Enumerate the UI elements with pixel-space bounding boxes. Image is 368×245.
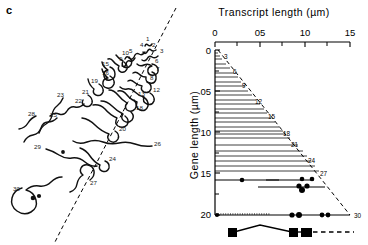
trace-label: 26 [154, 140, 161, 147]
trace-label: 2 [152, 41, 156, 48]
x-axis [215, 42, 350, 47]
x-tick-label: 0 [212, 27, 217, 38]
x-tick-label: 15 [345, 27, 356, 38]
y-tick-label: 10 [200, 127, 211, 138]
transcript-traces [12, 44, 159, 214]
trace-label: 10 [122, 49, 129, 56]
y-tick-label: 20 [200, 209, 211, 220]
trace-label: 16 [102, 69, 109, 76]
trace-label: 1 [146, 35, 150, 42]
series-label: 21 [291, 141, 299, 148]
y-tick-label: 05 [200, 86, 211, 97]
trace-label: 6 [155, 57, 159, 64]
trace-label: 21 [82, 88, 89, 95]
trace-label: 30 [13, 185, 20, 192]
series-label: 15 [268, 113, 276, 120]
series-label: 6 [233, 68, 237, 75]
gene-map [228, 225, 354, 237]
panel-c: c [0, 0, 184, 245]
x-tick-labels: 0 05 10 15 [212, 27, 355, 38]
trace-label: 9 [119, 55, 123, 62]
exon-box [228, 228, 237, 237]
y-axis-title: Gene length (µm) [188, 91, 200, 179]
trace-label: 18 [136, 104, 143, 111]
trace-label: 20 [119, 125, 126, 132]
series-label: 24 [308, 157, 316, 164]
y-tick-label: 15 [200, 168, 211, 179]
trace-label: 22 [75, 97, 82, 104]
panel-c-tracing: 1 2 3 4 5 6 7 8 9 10 12 13 15 16 18 19 2… [0, 0, 184, 245]
trace-label: 12 [153, 86, 160, 93]
y-tick-labels: 0 05 10 15 20 [200, 45, 211, 220]
trace-label: 3 [160, 47, 164, 54]
figure-container: c [0, 0, 368, 245]
trace-label: 27 [90, 179, 97, 186]
trace-label: 8 [150, 74, 154, 81]
exon-box [289, 228, 298, 237]
trace-label: 13 [138, 90, 145, 97]
dna-axis-dashed [55, 8, 176, 242]
x-tick-label: 05 [255, 27, 266, 38]
series-label: 12 [255, 98, 263, 105]
series-label: 18 [283, 130, 291, 137]
rnp-granules [31, 150, 65, 200]
panel-d-plot: Transcript length (µm) 0 05 10 15 Ge [184, 0, 368, 245]
trace-label: 4 [140, 41, 144, 48]
trace-label: 7 [156, 65, 160, 72]
x-axis-title: Transcript length (µm) [218, 6, 329, 18]
y-tick-label: 0 [206, 45, 211, 56]
panel-d: d Transcript length (µm) 0 05 10 15 [184, 0, 368, 245]
x-tick-label: 10 [300, 27, 311, 38]
panel-d-series-labels: 3 6 9 12 15 18 21 24 27 30 [224, 53, 362, 219]
trace-label: 28 [28, 110, 35, 117]
exon-box [301, 228, 312, 237]
trace-label: 5 [129, 47, 133, 54]
trace-label: 19 [91, 77, 98, 84]
trace-label: 24 [109, 155, 116, 162]
series-label: 9 [242, 82, 246, 89]
trace-label: 23 [57, 91, 64, 98]
y-axis [215, 50, 220, 215]
panel-c-trace-labels: 1 2 3 4 5 6 7 8 9 10 12 13 15 16 18 19 2… [13, 35, 164, 192]
trace-label: 25 [50, 111, 57, 118]
series-label: 30 [354, 212, 362, 219]
trace-label: 29 [34, 143, 41, 150]
series-label: 3 [224, 53, 228, 60]
series-label: 27 [320, 170, 328, 177]
dot-markers [215, 177, 331, 218]
trace-label: 15 [102, 60, 109, 67]
